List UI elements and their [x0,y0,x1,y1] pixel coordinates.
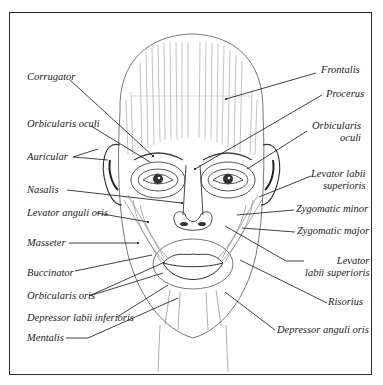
label-depressor-anguli-oris: Depressor anguli oris [277,324,369,336]
label-levator-labii-superioris-lower: Levator labii superioris [305,255,369,279]
label-orbicularis-oculi-left: Orbicularis oculi [27,118,100,130]
label-auricular: Auricular [27,151,68,163]
label-masseter: Masseter [27,237,66,249]
label-zygomatic-minor: Zygomatic minor [296,203,368,215]
label-frontalis: Frontalis [321,64,360,76]
label-corrugator: Corrugator [27,71,75,83]
label-nasalis: Nasalis [27,184,59,196]
label-risorius: Risorius [328,296,363,308]
label-procerus: Procerus [326,88,364,100]
label-depressor-labii-inferioris: Depressor labii inferioris [27,312,134,324]
label-buccinator: Buccinator [27,267,74,279]
label-orbicularis-oculi-right: Orbicularis oculi [312,120,361,144]
label-orbicularis-oris: Orbicularis oris [27,290,95,302]
label-zygomatic-major: Zygomatic major [297,225,369,237]
label-levator-anguli-oris: Levator anguli oris [27,207,108,219]
label-mentalis: Mentalis [27,332,64,344]
label-levator-labii-superioris-upper: Levator labii superioris [311,168,366,192]
